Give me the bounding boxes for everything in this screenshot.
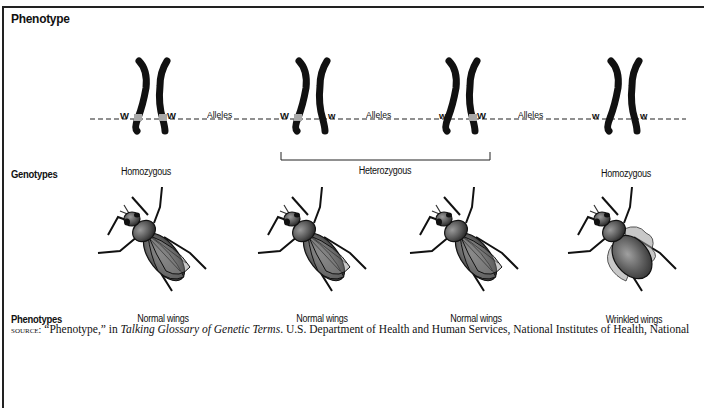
genotype-label-homozygous-left: Homozygous bbox=[121, 166, 171, 177]
allele-label: W bbox=[120, 110, 129, 121]
alleles-label: Alleles bbox=[207, 109, 232, 120]
fly-normal-wings-1 bbox=[98, 187, 206, 291]
genotype-label-homozygous-right: Homozygous bbox=[601, 168, 651, 179]
source-citation: source: “Phenotype,” in Talking Glossary… bbox=[11, 323, 689, 335]
allele-label: w bbox=[328, 110, 335, 121]
heterozygous-bracket bbox=[281, 152, 490, 160]
genotypes-row-label: Genotypes bbox=[11, 168, 57, 180]
fly-normal-wings-2 bbox=[258, 187, 366, 291]
allele-label: W bbox=[167, 110, 176, 121]
allele-label: w bbox=[592, 110, 599, 121]
source-rest: . U.S. Department of Health and Human Se… bbox=[280, 323, 689, 335]
fly-normal-wings-3 bbox=[410, 187, 518, 291]
chromosome-pair-2 bbox=[294, 61, 327, 131]
alleles-label: Alleles bbox=[366, 109, 391, 120]
chromosome-pair-3 bbox=[446, 61, 477, 131]
source-work-title: Talking Glossary of Genetic Terms bbox=[121, 323, 281, 335]
genotype-label-heterozygous: Heterozygous bbox=[359, 165, 411, 176]
chromosome-pair-1 bbox=[134, 61, 167, 131]
source-quote: “Phenotype,” in bbox=[41, 323, 120, 335]
allele-label: w bbox=[640, 110, 647, 121]
alleles-label: Alleles bbox=[518, 109, 543, 120]
source-prefix: source: bbox=[11, 324, 41, 335]
allele-label: W bbox=[477, 110, 486, 121]
fly-wrinkled-wings bbox=[568, 187, 676, 291]
allele-label: W bbox=[280, 110, 289, 121]
allele-label: w bbox=[439, 110, 446, 121]
chromosome-pair-4 bbox=[608, 61, 639, 131]
